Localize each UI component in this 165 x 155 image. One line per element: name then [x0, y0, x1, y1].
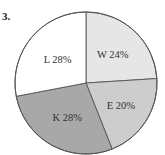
pie-chart: W 24%E 20%K 28%L 28% — [0, 0, 165, 155]
slice-label-e: E 20% — [107, 100, 136, 111]
slice-label-w: W 24% — [97, 49, 129, 60]
slice-label-l: L 28% — [44, 54, 72, 65]
pie-slice-w — [86, 12, 157, 83]
slice-label-k: K 28% — [52, 112, 82, 123]
pie-slices — [15, 12, 157, 154]
